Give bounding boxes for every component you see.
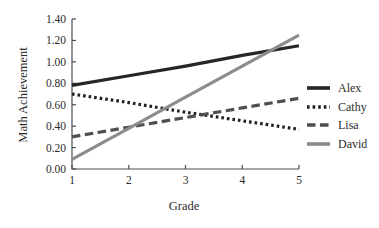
x-tick-label: 3 (183, 174, 189, 186)
legend-item-lisa: Lisa (306, 116, 367, 135)
legend-label: David (338, 138, 367, 150)
y-tick-label: 1.00 (46, 56, 66, 68)
legend-label: Lisa (338, 119, 359, 131)
y-tick-label: 0.40 (46, 120, 66, 132)
series-lines (72, 35, 299, 159)
x-tick-label: 2 (126, 174, 132, 186)
x-axis-title: Grade (169, 199, 200, 214)
series-line-lisa (72, 98, 299, 137)
series-line-david (72, 35, 299, 159)
legend-label: Alex (338, 82, 361, 94)
y-tick-label: 0.60 (46, 99, 66, 111)
legend-label: Cathy (338, 101, 367, 113)
series-line-cathy (72, 94, 299, 129)
x-tick-label: 1 (69, 174, 75, 186)
x-tick-label: 4 (239, 174, 245, 186)
y-axis-title: Math Achievement (16, 47, 31, 142)
legend-item-david: David (306, 135, 367, 154)
y-tick-label: 1.20 (46, 34, 66, 46)
x-tick-label: 5 (296, 174, 302, 186)
legend-line-sample (306, 84, 331, 92)
y-tick-label: 0.00 (46, 163, 66, 175)
axes: 0.000.200.400.600.801.001.201.4012345 (46, 13, 302, 186)
legend: Alex Cathy Lisa David (306, 79, 367, 153)
legend-line-sample (306, 103, 331, 111)
legend-item-cathy: Cathy (306, 98, 367, 117)
legend-line-sample (306, 140, 331, 148)
y-tick-label: 1.40 (46, 13, 66, 25)
legend-line-sample (306, 121, 331, 129)
series-line-alex (72, 46, 299, 86)
line-chart: 0.000.200.400.600.801.001.201.4012345 Ma… (0, 0, 379, 228)
y-tick-label: 0.20 (46, 142, 66, 154)
y-tick-label: 0.80 (46, 77, 66, 89)
axis-spines (72, 19, 299, 169)
legend-item-alex: Alex (306, 79, 367, 98)
